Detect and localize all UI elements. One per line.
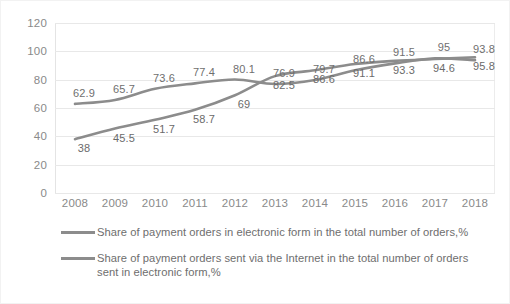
x-axis-tick-2012: 2012 (222, 197, 248, 209)
data-label-s2-2015: 91.1 (353, 67, 375, 79)
x-axis-tick-2017: 2017 (422, 197, 448, 209)
y-axis-tick-40: 40 (34, 130, 47, 142)
x-axis-tick-2009: 2009 (102, 197, 128, 209)
data-label-s2-2017: 94.6 (433, 62, 455, 74)
y-axis-tick-120: 120 (27, 17, 47, 29)
x-axis-tick-2013: 2013 (262, 197, 288, 209)
y-axis-tick-20: 20 (34, 159, 47, 171)
plot-area: 020406080100120 62.965.773.677.480.176.9… (55, 23, 495, 193)
y-axis-tick-60: 60 (34, 102, 47, 114)
gridline-0: 0 (55, 193, 495, 194)
x-axis-tick-2010: 2010 (142, 197, 168, 209)
y-axis-tick-100: 100 (27, 45, 47, 57)
x-axis-tick-2015: 2015 (342, 197, 368, 209)
data-label-s2-2018: 95.8 (473, 60, 495, 72)
chart-container: 020406080100120 62.965.773.677.480.176.9… (0, 0, 510, 304)
data-label-s1-2015: 86.6 (353, 53, 375, 65)
data-label-s2-2016: 93.3 (393, 64, 415, 76)
data-label-s2-2009: 45.5 (113, 132, 135, 144)
legend-item-series-2[interactable]: Share of payment orders sent via the Int… (61, 251, 491, 279)
data-label-s1-2018: 93.8 (473, 43, 495, 55)
legend-swatch-series-2 (61, 257, 95, 260)
legend-item-series-1[interactable]: Share of payment orders in electronic fo… (61, 225, 491, 239)
legend-label-series-2: Share of payment orders sent via the Int… (97, 251, 469, 279)
x-axis-tick-2014: 2014 (302, 197, 328, 209)
data-label-s1-2008: 62.9 (73, 87, 95, 99)
data-label-s2-2012: 69 (238, 98, 250, 110)
chart-legend: Share of payment orders in electronic fo… (61, 225, 491, 291)
x-axis-tick-2018: 2018 (462, 197, 488, 209)
data-label-s1-2009: 65.7 (113, 83, 135, 95)
legend-swatch-series-1 (61, 231, 95, 234)
data-label-s1-2016: 91.5 (393, 46, 415, 58)
series-lines (55, 23, 495, 193)
y-axis-tick-80: 80 (34, 74, 47, 86)
x-axis-tick-2008: 2008 (62, 197, 88, 209)
data-label-s2-2014: 86.6 (313, 73, 335, 85)
legend-label-series-1: Share of payment orders in electronic fo… (97, 225, 468, 239)
data-label-s1-2010: 73.6 (153, 72, 175, 84)
data-label-s1-2011: 77.4 (193, 66, 215, 78)
x-axis: 2008200920102011201220132014201520162017… (55, 197, 495, 219)
x-axis-tick-2011: 2011 (182, 197, 208, 209)
x-axis-tick-2016: 2016 (382, 197, 408, 209)
data-label-s1-2013: 76.9 (273, 67, 295, 79)
data-label-s2-2008: 38 (78, 142, 90, 154)
y-axis-tick-0: 0 (40, 187, 47, 199)
data-label-s2-2011: 58.7 (193, 113, 215, 125)
data-label-s2-2013: 82.5 (273, 79, 295, 91)
data-label-s2-2010: 51.7 (153, 123, 175, 135)
data-label-s1-2017: 95 (438, 41, 450, 53)
data-label-s1-2012: 80.1 (233, 63, 255, 75)
